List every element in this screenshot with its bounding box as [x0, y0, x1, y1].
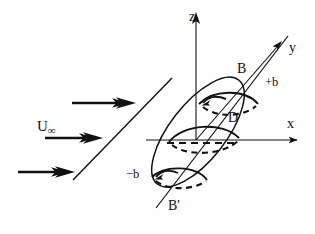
z-axis-label: z — [189, 10, 195, 24]
y-axis-label: y — [289, 41, 296, 55]
span-axis-bb — [156, 36, 288, 208]
freestream-symbol: U — [37, 118, 48, 134]
diagram-svg — [0, 0, 315, 234]
freestream-subscript: ∞ — [48, 124, 56, 136]
flow-arrow-top — [72, 97, 136, 109]
point-b-upper-label: B — [237, 62, 246, 76]
flow-arrow-bottom — [18, 166, 75, 178]
span-positive-label: +b — [265, 76, 278, 89]
figure-canvas: z y x B B' +b −b D U∞ — [0, 0, 315, 234]
freestream-velocity-label: U∞ — [37, 119, 56, 136]
diameter-label: D — [228, 111, 238, 125]
x-axis-label: x — [287, 117, 294, 131]
freestream-arrows — [18, 97, 136, 178]
z-axis — [192, 12, 200, 140]
inclined-surface-line — [73, 78, 172, 180]
span-negative-label: −b — [126, 168, 139, 181]
body-outline-group — [135, 63, 260, 201]
y-axis — [196, 41, 282, 140]
point-b-lower-label: B' — [168, 199, 180, 213]
body-outline — [135, 63, 260, 201]
